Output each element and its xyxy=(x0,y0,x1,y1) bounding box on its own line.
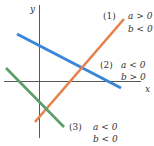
line-1-label: (1) xyxy=(103,11,116,21)
line-1-orange xyxy=(35,19,124,122)
line-1-cond-a: a > 0 xyxy=(128,11,153,21)
line-1-cond-b: b < 0 xyxy=(128,24,153,34)
line-2-label: (2) xyxy=(100,60,113,70)
x-axis-label: x xyxy=(145,84,150,94)
line-2-cond-a: a < 0 xyxy=(121,60,146,70)
line-sign-diagram: y x (1) a > 0 b < 0 (2) a < 0 b > 0 (3) … xyxy=(0,0,154,146)
line-3-cond-b: b < 0 xyxy=(93,134,118,144)
line-2-cond-b: b > 0 xyxy=(121,72,146,82)
line-3-cond-a: a < 0 xyxy=(93,122,118,132)
line-3-label: (3) xyxy=(69,122,82,132)
y-axis-label: y xyxy=(29,4,36,14)
